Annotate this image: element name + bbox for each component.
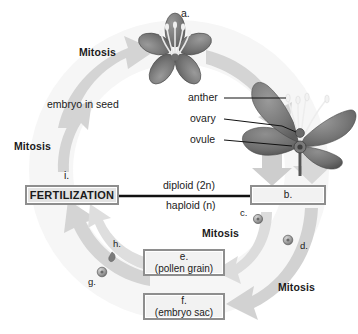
label-ovule: ovule xyxy=(190,134,215,145)
flower-side-view-icon xyxy=(242,82,356,176)
box-f-embryo-sac[interactable]: f. (embryo sac) xyxy=(143,293,225,320)
label-g: g. xyxy=(88,277,96,287)
label-c: c. xyxy=(240,208,247,218)
life-cycle-diagram: a. Mitosis embryo in seed Mitosis anther… xyxy=(0,0,358,334)
spore-icon-c-core xyxy=(257,218,260,221)
spore-icon-g-core xyxy=(100,270,103,273)
label-a: a. xyxy=(181,8,190,19)
label-ovary: ovary xyxy=(190,113,216,124)
label-mitosis-mid-left: Mitosis xyxy=(14,141,51,152)
label-diploid: diploid (2n) xyxy=(163,180,215,191)
box-e-sublabel: (pollen grain) xyxy=(155,263,213,274)
label-haploid: haploid (n) xyxy=(166,200,216,211)
label-i: i. xyxy=(64,170,69,181)
box-f-sublabel: (embryo sac) xyxy=(155,307,213,318)
label-mitosis-bottom-right: Mitosis xyxy=(278,282,315,293)
label-mitosis-mid-right: Mitosis xyxy=(202,228,239,239)
box-f-label: f. xyxy=(181,295,187,306)
box-e-pollen-grain[interactable]: e. (pollen grain) xyxy=(143,249,225,276)
label-embryo-in-seed: embryo in seed xyxy=(47,99,119,110)
spore-icon-d-core xyxy=(286,238,289,241)
fertilization-label: FERTILIZATION xyxy=(30,189,114,201)
label-d: d. xyxy=(300,241,308,251)
box-b[interactable]: b. xyxy=(250,185,326,205)
label-mitosis-top-left: Mitosis xyxy=(79,47,116,58)
fertilization-box[interactable]: FERTILIZATION xyxy=(25,185,119,205)
box-e-label: e. xyxy=(180,251,188,262)
label-h: h. xyxy=(113,239,121,249)
box-b-label: b. xyxy=(284,189,292,200)
label-anther: anther xyxy=(188,92,218,103)
